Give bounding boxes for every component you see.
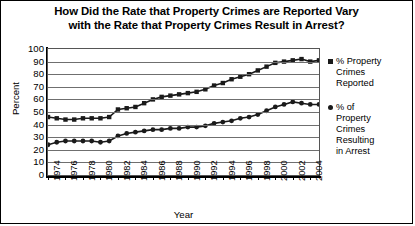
x-tick-mark [135, 177, 136, 180]
y-tick-label: 50 [18, 107, 44, 117]
chart-legend: % PropertyCrimesReported% ofPropertyCrim… [328, 56, 414, 170]
data-series [48, 100, 319, 148]
x-tick-label: 1992 [209, 160, 219, 181]
x-tick-label: 2002 [297, 160, 307, 181]
data-point-square [229, 77, 233, 81]
x-tick-label: 1990 [192, 160, 202, 181]
x-tick-mark [293, 177, 294, 180]
data-point-circle [133, 130, 138, 135]
y-tick-label: 30 [18, 132, 44, 142]
gridline [48, 99, 319, 100]
series-line [48, 102, 319, 145]
data-point-square [168, 93, 172, 97]
data-point-circle [159, 127, 164, 132]
legend-label-line: Resulting [336, 135, 374, 146]
gridline [48, 62, 319, 63]
data-point-circle [299, 101, 304, 106]
data-point-circle [151, 127, 156, 132]
data-point-circle [168, 126, 173, 131]
y-tick-label: 100 [18, 44, 44, 54]
legend-label: % PropertyCrimesReported [336, 56, 381, 89]
legend-entry[interactable]: % ofPropertyCrimesResultingin Arrest [328, 102, 414, 157]
data-point-square [142, 101, 146, 105]
data-point-circle [282, 102, 287, 107]
data-point-square [194, 90, 198, 94]
data-point-square [72, 117, 76, 121]
data-point-circle [81, 139, 86, 144]
gridline [48, 137, 319, 138]
chart-title-line-2: with the Rate that Property Crimes Resul… [1, 18, 412, 32]
legend-square-icon [328, 59, 333, 64]
data-point-square [256, 68, 260, 72]
legend-label-line: Crimes [336, 67, 381, 78]
data-point-circle [63, 139, 68, 144]
x-tick-mark [65, 177, 66, 180]
gridline [48, 87, 319, 88]
chart-title-line-1: How Did the Rate that Property Crimes ar… [1, 4, 412, 18]
x-tick-mark [258, 177, 259, 180]
y-axis-ticks: 0102030405060708090100 [14, 1, 44, 226]
x-tick-label: 1978 [87, 160, 97, 181]
chart-figure: How Did the Rate that Property Crimes ar… [0, 0, 413, 224]
data-point-circle [54, 140, 59, 145]
data-point-square [264, 64, 268, 68]
data-point-square [133, 105, 137, 109]
legend-label-line: % Property [336, 56, 381, 67]
data-point-circle [273, 105, 278, 110]
data-point-circle [48, 142, 50, 147]
data-point-square [186, 91, 190, 95]
data-point-square [221, 81, 225, 85]
y-tick-label: 80 [18, 69, 44, 79]
legend-label-line: Property [336, 113, 374, 124]
data-point-circle [124, 131, 129, 136]
series-line [48, 59, 319, 119]
x-tick-mark [48, 177, 49, 180]
x-tick-label: 1998 [262, 160, 272, 181]
x-tick-mark [100, 177, 101, 180]
legend-label-line: Reported [336, 78, 381, 89]
x-tick-mark [118, 177, 119, 180]
gridline [48, 150, 319, 151]
x-tick-mark [153, 177, 154, 180]
x-tick-mark [188, 177, 189, 180]
data-point-circle [89, 139, 94, 144]
data-point-circle [308, 102, 313, 107]
x-tick-mark [240, 177, 241, 180]
chart-title: How Did the Rate that Property Crimes ar… [1, 4, 412, 32]
x-tick-label: 1986 [157, 160, 167, 181]
x-tick-label: 1994 [227, 160, 237, 181]
data-point-circle [177, 126, 182, 131]
data-point-circle [107, 139, 112, 144]
data-point-circle [142, 129, 147, 134]
y-tick-label: 60 [18, 94, 44, 104]
y-tick-label: 70 [18, 82, 44, 92]
gridline [48, 125, 319, 126]
legend-entry[interactable]: % PropertyCrimesReported [328, 56, 414, 89]
x-tick-mark [83, 177, 84, 180]
x-tick-label: 1984 [139, 160, 149, 181]
x-tick-label: 1976 [69, 160, 79, 181]
x-tick-label: 1988 [174, 160, 184, 181]
data-point-square [98, 116, 102, 120]
x-tick-label: 2004 [314, 160, 324, 181]
data-point-square [48, 115, 50, 119]
x-tick-label: 1982 [122, 160, 132, 181]
data-point-square [90, 116, 94, 120]
data-point-circle [98, 140, 103, 145]
gridline [48, 74, 319, 75]
y-tick-label: 40 [18, 120, 44, 130]
data-point-circle [317, 102, 319, 107]
data-point-square [63, 117, 67, 121]
y-tick-label: 10 [18, 157, 44, 167]
y-tick-label: 20 [18, 145, 44, 155]
legend-label-line: % of [336, 102, 374, 113]
data-point-circle [72, 139, 77, 144]
x-tick-label: 2000 [279, 160, 289, 181]
x-tick-label: 1996 [244, 160, 254, 181]
data-point-square [81, 116, 85, 120]
legend-label-line: in Arrest [336, 146, 374, 157]
x-tick-mark [310, 177, 311, 180]
x-tick-mark [275, 177, 276, 180]
x-tick-label: 1980 [104, 160, 114, 181]
data-point-square [107, 115, 111, 119]
